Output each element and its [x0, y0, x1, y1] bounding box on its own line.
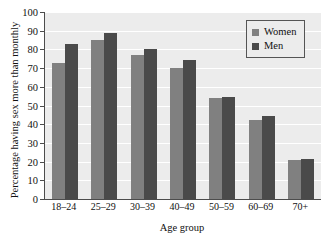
- bar-women: [52, 63, 65, 200]
- x-tick-label: 25–29: [91, 201, 116, 212]
- legend-item-women: Women: [252, 25, 296, 39]
- bar-women: [249, 120, 262, 199]
- bar-women: [91, 40, 104, 199]
- bar-group: [91, 12, 117, 199]
- x-tick-label: 60–69: [248, 201, 273, 212]
- bar-women: [131, 55, 144, 199]
- x-axis-title: Age group: [44, 222, 320, 233]
- legend-label-women: Women: [264, 25, 296, 39]
- y-axis-tick-labels: 0102030405060708090100: [0, 0, 44, 248]
- bar-group: [209, 12, 235, 199]
- y-tick-label: 0: [8, 194, 38, 205]
- x-axis-tick-labels: 18–2425–2930–3940–4950–5960–6970+: [44, 201, 320, 217]
- x-tick-label: 40–49: [170, 201, 195, 212]
- x-tick-label: 30–39: [130, 201, 155, 212]
- y-tick-label: 80: [8, 44, 38, 55]
- bar-group: [170, 12, 196, 199]
- y-tick-label: 70: [8, 63, 38, 74]
- bar-men: [65, 44, 78, 199]
- x-tick-label: 18–24: [51, 201, 76, 212]
- bar-women: [170, 68, 183, 199]
- legend-swatch-women-icon: [252, 29, 259, 36]
- bar-men: [262, 116, 275, 199]
- y-tick-label: 100: [8, 7, 38, 18]
- y-tick-label: 40: [8, 119, 38, 130]
- bar-women: [288, 160, 301, 199]
- legend-label-men: Men: [264, 39, 283, 53]
- legend-item-men: Men: [252, 39, 296, 53]
- x-tick-label: 70+: [292, 201, 308, 212]
- x-tick-label: 50–59: [209, 201, 234, 212]
- bar-men: [144, 49, 157, 199]
- y-tick-label: 90: [8, 25, 38, 36]
- bar-chart: Percentage having sex more than monthly …: [0, 0, 333, 248]
- bar-men: [104, 33, 117, 199]
- y-tick-label: 30: [8, 137, 38, 148]
- bar-group: [52, 12, 78, 199]
- bar-women: [209, 98, 222, 199]
- legend-swatch-men-icon: [252, 43, 259, 50]
- y-tick-label: 50: [8, 100, 38, 111]
- legend: Women Men: [246, 20, 305, 58]
- bar-men: [183, 60, 196, 199]
- bar-men: [301, 159, 314, 199]
- bar-group: [131, 12, 157, 199]
- bar-men: [222, 97, 235, 199]
- y-tick-label: 60: [8, 81, 38, 92]
- y-tick-label: 20: [8, 156, 38, 167]
- y-tick-label: 10: [8, 175, 38, 186]
